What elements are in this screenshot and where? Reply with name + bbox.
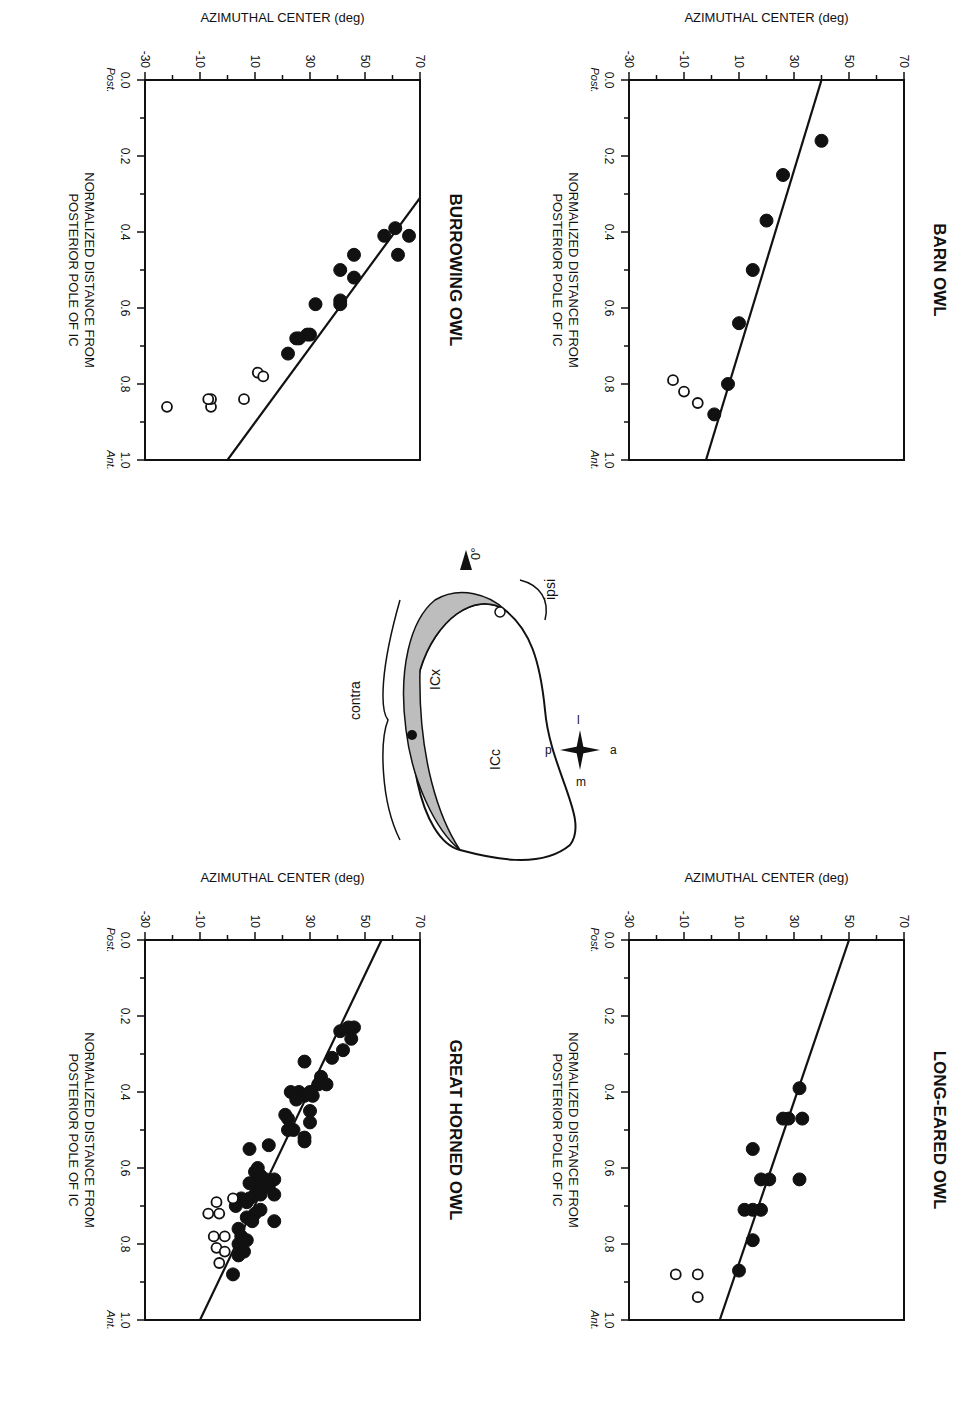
y-tick-label: 50 [842,915,856,929]
filled-data-point [760,214,773,227]
x-tick-label: 0.0 [118,932,132,949]
filled-data-point [348,271,361,284]
filled-data-point [345,1032,358,1045]
filled-data-point [722,378,735,391]
filled-data-point [232,1249,245,1262]
y-axis-label: AZIMUTHAL CENTER (deg) [200,870,364,885]
y-axis-label: AZIMUTHAL CENTER (deg) [684,870,848,885]
filled-data-point [246,1215,259,1228]
x-axis-label: NORMALIZED DISTANCE FROM [82,1032,97,1228]
x-tick-label: 0.4 [602,224,616,241]
open-data-point [693,398,703,408]
regression-line [228,198,421,460]
panel-barn-owl: BARN OWL0.00.20.40.60.81.0Post.Ant.NORMA… [484,0,968,560]
open-data-point [228,1193,238,1203]
x-tick-label: 0.8 [118,1236,132,1253]
y-tick-label: -30 [622,911,636,929]
x-tick-label: 0.8 [602,1236,616,1253]
filled-data-point [334,264,347,277]
open-data-point [209,1231,219,1241]
y-tick-label: -10 [677,911,691,929]
panel-great-horned-owl: GREAT HORNED OWL0.00.20.40.60.81.0Post.A… [0,860,484,1420]
x-tick-label: 0.8 [602,376,616,393]
regression-line [706,80,822,460]
x-start-label: Post. [105,67,117,92]
x-start-label: Post. [589,67,601,92]
x-tick-label: 0.0 [602,932,616,949]
x-tick-label: 0.2 [602,148,616,165]
y-tick-label: 50 [358,55,372,69]
chart-barn-owl: BARN OWL0.00.20.40.60.81.0Post.Ant.NORMA… [460,0,964,550]
filled-data-point [793,1173,806,1186]
x-tick-label: 1.0 [602,1312,616,1329]
x-axis-label-line2: POSTERIOR POLE OF IC [66,193,81,346]
x-axis-label: NORMALIZED DISTANCE FROM [82,172,97,368]
open-data-point [214,1209,224,1219]
filled-data-point [282,1124,295,1137]
filled-data-point [298,1055,311,1068]
filled-data-point [290,1093,303,1106]
compass-m: m [576,775,586,789]
open-data-point [162,402,172,412]
contra-brace [383,600,400,840]
scatter-plot: LONG-EARED OWL0.00.20.40.60.81.0Post.Ant… [464,850,964,1410]
filled-data-point [334,298,347,311]
x-tick-label: 1.0 [118,452,132,469]
y-tick-label: -10 [193,911,207,929]
y-tick-label: 10 [732,915,746,929]
ic-schematic-diagram: contra ipsi ICx ICc 0° a p l m [340,540,660,870]
x-axis-label-line2: POSTERIOR POLE OF IC [550,193,565,346]
x-end-label: Ant. [589,1309,601,1330]
filled-data-point [746,1234,759,1247]
x-tick-label: 0.0 [602,72,616,89]
x-end-label: Ant. [589,449,601,470]
x-tick-label: 0.8 [118,376,132,393]
x-tick-label: 1.0 [602,452,616,469]
x-tick-label: 0.6 [118,1160,132,1177]
filled-data-point [309,298,322,311]
y-axis-label: AZIMUTHAL CENTER (deg) [684,10,848,25]
x-axis-label: NORMALIZED DISTANCE FROM [566,172,581,368]
x-tick-label: 0.0 [118,72,132,89]
filled-data-point [282,347,295,360]
compass-p: p [545,743,552,757]
filled-data-point [403,229,416,242]
x-tick-label: 0.4 [118,224,132,241]
y-tick-label: 50 [842,55,856,69]
filled-data-point [793,1082,806,1095]
label-icx: ICx [427,669,443,690]
y-tick-label: 30 [787,55,801,69]
filled-data-point [733,1264,746,1277]
open-data-point [220,1231,230,1241]
x-axis-label-line2: POSTERIOR POLE OF IC [66,1053,81,1206]
y-tick-label: -30 [138,51,152,69]
plot-frame [629,80,904,460]
y-tick-label: 70 [897,55,911,69]
y-tick-label: -10 [677,51,691,69]
y-tick-label: 10 [248,915,262,929]
filled-data-point [796,1112,809,1125]
panel-burrowing-owl: BURROWING OWL0.00.20.40.60.81.0Post.Ant.… [0,0,484,500]
filled-data-point [268,1188,281,1201]
filled-data-point [777,1112,790,1125]
label-zero-degree: 0° [468,548,483,560]
filled-data-point [777,169,790,182]
x-axis-label: NORMALIZED DISTANCE FROM [566,1032,581,1228]
chart-great-horned-owl: GREAT HORNED OWL0.00.20.40.60.81.0Post.A… [0,850,480,1410]
y-tick-label: 50 [358,915,372,929]
x-tick-label: 0.2 [118,1008,132,1025]
filled-marker-icon [407,730,417,740]
filled-data-point [755,1173,768,1186]
label-contra: contra [347,681,363,720]
open-data-point [239,394,249,404]
open-data-point [668,375,678,385]
y-tick-label: 10 [732,55,746,69]
scatter-plot: BURROWING OWL0.00.20.40.60.81.0Post.Ant.… [0,0,480,550]
plot-frame [629,940,904,1320]
x-tick-label: 1.0 [118,1312,132,1329]
x-tick-label: 0.2 [602,1008,616,1025]
label-icc: ICc [487,749,503,770]
filled-data-point [378,229,391,242]
filled-data-point [243,1143,256,1156]
chart-title: LONG-EARED OWL [930,1051,949,1210]
